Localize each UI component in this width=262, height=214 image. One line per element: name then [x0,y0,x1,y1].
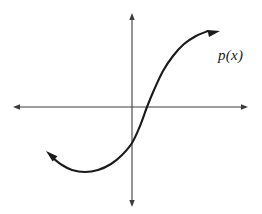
y-axis-top-arrowhead [129,13,134,20]
graph-figure: p(x) [0,0,262,214]
x-axis [13,104,248,109]
curve-label-p-of-x: p(x) [218,48,243,63]
x-axis-right-arrowhead [241,104,248,109]
y-axis-bottom-arrowhead [129,200,134,207]
graph-canvas [0,0,262,214]
cubic-curve-path [53,31,208,172]
cubic-curve-group [46,30,220,172]
y-axis [129,13,134,207]
curve-right-arrowhead [208,30,220,37]
x-axis-left-arrowhead [13,104,20,109]
